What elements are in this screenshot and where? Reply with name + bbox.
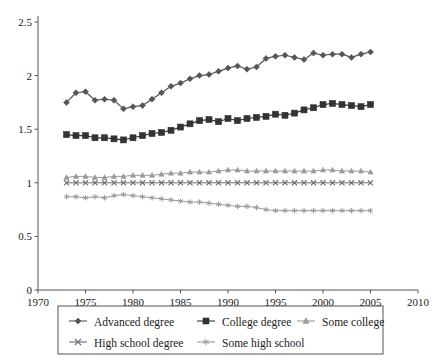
data-point-marker (282, 52, 288, 58)
legend-item-college-degree[interactable]: College degree (197, 316, 291, 329)
y-axis-tick-label: 2.5 (18, 16, 32, 28)
data-point-marker (140, 133, 146, 139)
data-point-marker (83, 133, 89, 139)
data-point-marker (187, 121, 193, 127)
data-point-marker (349, 54, 355, 60)
data-point-marker (102, 96, 108, 102)
data-point-marker (197, 73, 203, 79)
data-point-marker (203, 318, 209, 324)
data-point-marker (330, 51, 336, 57)
series-college-degree (64, 100, 374, 142)
y-axis-tick-label: 0.5 (18, 230, 32, 242)
data-point-marker (168, 127, 174, 133)
data-point-marker (216, 68, 222, 74)
data-point-marker (244, 66, 250, 72)
data-point-marker (216, 119, 222, 125)
y-axis-tick-label: 0 (27, 284, 33, 296)
data-point-marker (349, 103, 355, 109)
data-point-marker (102, 135, 108, 141)
legend-item-advanced-degree[interactable]: Advanced degree (69, 316, 174, 329)
data-point-marker (282, 112, 288, 118)
chart-series-area (64, 49, 374, 213)
data-point-marker (339, 51, 345, 57)
series-some-high-school (64, 192, 373, 214)
x-axis-tick-label: 1970 (27, 296, 50, 308)
data-point-marker (130, 135, 136, 141)
data-point-marker (235, 63, 241, 69)
legend-item-high-school-degree[interactable]: High school degree (69, 337, 183, 350)
data-point-marker (206, 72, 212, 78)
series-high-school-degree (64, 180, 373, 185)
y-axis-tick-label: 1.5 (18, 123, 32, 135)
data-point-marker (263, 113, 269, 119)
data-point-marker (301, 107, 307, 113)
x-axis-tick-label: 2010 (407, 296, 430, 308)
data-point-marker (206, 117, 212, 123)
data-point-marker (187, 76, 193, 82)
data-point-marker (73, 133, 79, 139)
data-point-marker (358, 104, 364, 110)
data-point-marker (121, 137, 127, 143)
line-chart: 00.511.522.5 197019751980198519901995200… (0, 0, 436, 362)
legend-label: Some college (322, 316, 384, 329)
y-axis-tick-labels: 00.511.522.5 (18, 16, 38, 296)
data-point-marker (149, 130, 155, 136)
data-point-marker (273, 53, 279, 59)
y-axis-tick-label: 1 (27, 177, 33, 189)
x-axis-tick-labels: 197019751980198519901995200020052010 (27, 290, 430, 308)
data-point-marker (368, 102, 374, 108)
data-point-marker (130, 104, 136, 110)
data-point-marker (225, 65, 231, 71)
data-point-marker (197, 118, 203, 124)
legend-item-some-college[interactable]: Some college (297, 316, 384, 329)
data-point-marker (320, 52, 326, 58)
series-advanced-degree (64, 49, 374, 112)
data-point-marker (358, 51, 364, 57)
data-point-marker (159, 129, 165, 135)
data-point-marker (292, 54, 298, 60)
data-point-marker (339, 102, 345, 108)
chart-legend: Advanced degreeCollege degreeSome colleg… (58, 306, 384, 354)
legend-label: Advanced degree (94, 316, 174, 329)
data-point-marker (292, 110, 298, 116)
y-axis-tick-label: 2 (27, 70, 33, 82)
data-point-marker (244, 115, 250, 121)
data-point-marker (273, 111, 279, 117)
data-point-marker (368, 49, 374, 55)
data-point-marker (178, 80, 184, 86)
data-point-marker (92, 135, 98, 141)
legend-label: High school degree (94, 337, 183, 350)
series-some-college (64, 167, 373, 179)
legend-item-some-high-school[interactable]: Some high school (197, 337, 304, 350)
data-point-marker (75, 318, 81, 324)
data-point-marker (64, 132, 70, 138)
data-point-marker (254, 114, 260, 120)
data-point-marker (320, 102, 326, 108)
data-point-marker (111, 136, 117, 142)
data-point-marker (330, 100, 336, 106)
data-point-marker (225, 115, 231, 121)
data-point-marker (178, 124, 184, 130)
data-point-marker (235, 118, 241, 124)
data-point-marker (311, 105, 317, 111)
legend-label: Some high school (222, 337, 304, 350)
chart-figure: 00.511.522.5 197019751980198519901995200… (0, 0, 436, 362)
legend-label: College degree (222, 316, 291, 329)
